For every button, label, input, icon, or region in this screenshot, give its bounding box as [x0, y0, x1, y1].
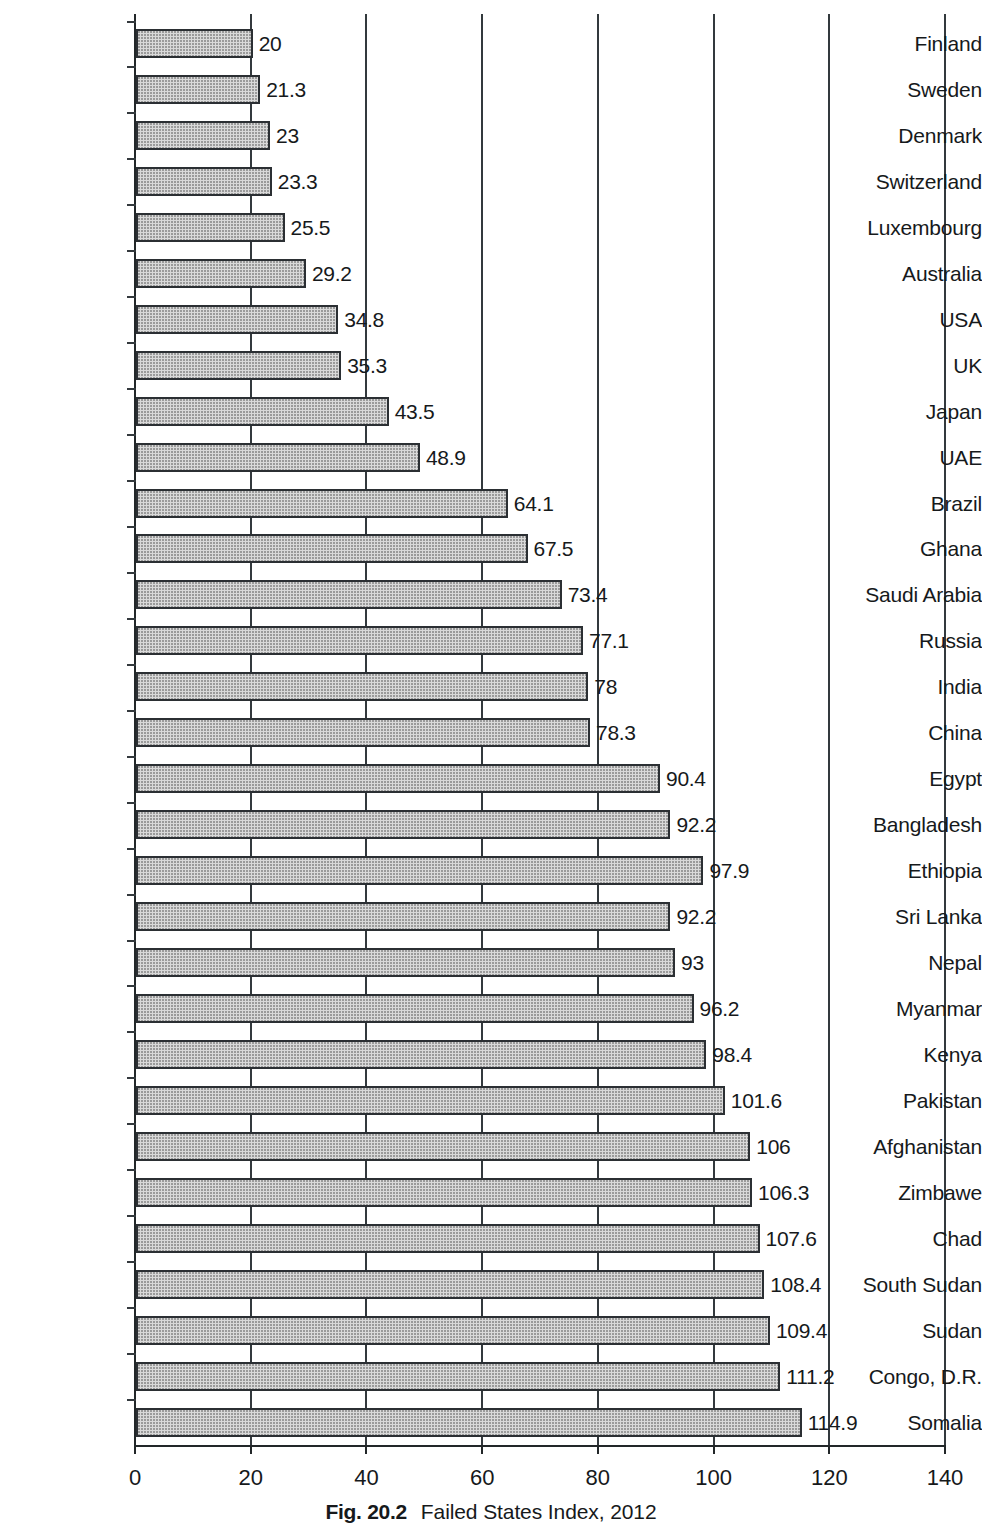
category-label: Japan	[854, 401, 982, 422]
bar-row: Nepal93	[0, 948, 982, 977]
category-tick	[127, 434, 136, 436]
category-label: USA	[854, 309, 982, 330]
bar-row: Chad107.6	[0, 1224, 982, 1253]
bar-value-label: 48.9	[426, 447, 466, 468]
x-tick-label: 80	[586, 1466, 610, 1490]
bar-row: Saudi Arabia73.4	[0, 580, 982, 609]
bar-chart-plot-area: Finland20Sweden21.3Denmark23Switzerland2…	[0, 0, 982, 1470]
bar-row: Ethiopia97.9	[0, 856, 982, 885]
bar-value-label: 114.9	[808, 1412, 858, 1433]
bar	[136, 994, 694, 1023]
bar	[136, 1270, 764, 1299]
bar-value-label: 34.8	[344, 309, 384, 330]
bar	[136, 1040, 706, 1069]
category-label: Zimbawe	[854, 1182, 982, 1203]
bar-row: Finland20	[0, 29, 982, 58]
category-label: China	[854, 722, 982, 743]
bar-row: UAE48.9	[0, 443, 982, 472]
bar	[136, 167, 272, 196]
category-tick	[127, 1215, 136, 1217]
x-tick-label: 100	[695, 1466, 732, 1490]
bar-value-label: 111.2	[786, 1366, 834, 1387]
bar-row: Congo, D.R.111.2	[0, 1362, 982, 1391]
x-tick-label: 20	[238, 1466, 262, 1490]
category-tick	[127, 112, 136, 114]
figure-caption: Fig. 20.2Failed States Index, 2012	[0, 1500, 982, 1524]
bar	[136, 856, 703, 885]
category-label: UAE	[854, 447, 982, 468]
category-label: Brazil	[854, 493, 982, 514]
category-label: Somalia	[854, 1412, 982, 1433]
x-tick-140	[944, 1445, 946, 1454]
bar	[136, 1178, 752, 1207]
bar-row: Egypt90.4	[0, 764, 982, 793]
bar	[136, 1408, 802, 1437]
category-tick	[127, 158, 136, 160]
bar-value-label: 109.4	[776, 1320, 827, 1341]
category-tick	[127, 1399, 136, 1401]
category-label: Finland	[854, 33, 982, 54]
bar-row: Bangladesh92.2	[0, 810, 982, 839]
bar-value-label: 77.1	[589, 630, 629, 651]
bar-row: Russia77.1	[0, 626, 982, 655]
category-label: Russia	[854, 630, 982, 651]
bar-row: Luxembourg25.5	[0, 213, 982, 242]
bar-value-label: 73.4	[568, 584, 608, 605]
x-tick-60	[481, 1445, 483, 1454]
bar-value-label: 107.6	[766, 1228, 817, 1249]
category-label: Nepal	[854, 952, 982, 973]
bar-value-label: 101.6	[731, 1090, 782, 1111]
category-label: South Sudan	[854, 1274, 982, 1295]
bar-value-label: 43.5	[395, 401, 435, 422]
bar-row: Switzerland23.3	[0, 167, 982, 196]
category-tick	[127, 802, 136, 804]
bar-value-label: 92.2	[676, 814, 716, 835]
category-tick	[127, 940, 136, 942]
bar-row: China78.3	[0, 718, 982, 747]
category-tick	[127, 296, 136, 298]
category-tick	[127, 526, 136, 528]
bar	[136, 351, 341, 380]
bar	[136, 902, 670, 931]
bar-value-label: 21.3	[266, 79, 306, 100]
bar	[136, 534, 528, 563]
category-tick	[127, 250, 136, 252]
bar	[136, 810, 670, 839]
bar-value-label: 92.2	[676, 906, 716, 927]
bar	[136, 672, 588, 701]
category-tick	[127, 342, 136, 344]
category-tick	[127, 664, 136, 666]
category-label: Saudi Arabia	[854, 584, 982, 605]
category-tick	[127, 848, 136, 850]
category-label: Luxembourg	[854, 217, 982, 238]
bar-row: India78	[0, 672, 982, 701]
bar-row: Sri Lanka92.2	[0, 902, 982, 931]
category-tick	[127, 1031, 136, 1033]
x-tick-100	[713, 1445, 715, 1454]
category-label: Sri Lanka	[854, 906, 982, 927]
x-tick-label: 60	[470, 1466, 494, 1490]
bar-row: Kenya98.4	[0, 1040, 982, 1069]
category-label: Switzerland	[854, 171, 982, 192]
category-label: Myanmar	[854, 998, 982, 1019]
bar	[136, 764, 660, 793]
bar	[136, 397, 389, 426]
x-tick-label: 120	[811, 1466, 848, 1490]
x-tick-label: 140	[927, 1466, 964, 1490]
category-tick	[127, 572, 136, 574]
bar-row: USA34.8	[0, 305, 982, 334]
bar-value-label: 96.2	[700, 998, 740, 1019]
bar-row: Afghanistan106	[0, 1132, 982, 1161]
category-tick	[127, 1123, 136, 1125]
bar-value-label: 97.9	[709, 860, 749, 881]
bar	[136, 580, 562, 609]
x-tick-20	[250, 1445, 252, 1454]
category-tick	[127, 204, 136, 206]
bar-value-label: 25.5	[291, 217, 331, 238]
bar-value-label: 93	[681, 952, 704, 973]
bar-row: Japan43.5	[0, 397, 982, 426]
category-label: Australia	[854, 263, 982, 284]
category-label: Kenya	[854, 1044, 982, 1065]
category-label: Sweden	[854, 79, 982, 100]
bar	[136, 213, 285, 242]
